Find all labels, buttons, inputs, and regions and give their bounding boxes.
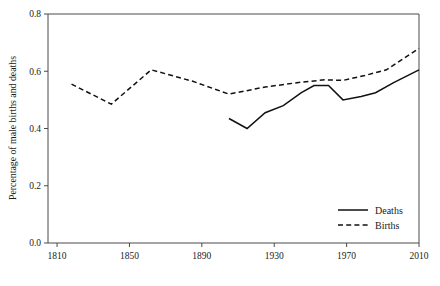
- plot-frame: [48, 14, 419, 243]
- y-tick-label: 0.6: [29, 67, 41, 77]
- series-line-deaths: [229, 70, 419, 129]
- data-series-group: [72, 48, 419, 128]
- x-tick-label: 2010: [410, 251, 429, 261]
- legend-label-deaths: Deaths: [375, 205, 403, 216]
- x-tick-label: 1890: [192, 251, 211, 261]
- y-tick-label: 0.8: [29, 9, 41, 19]
- legend-label-births: Births: [375, 220, 400, 231]
- x-tick-label: 1850: [120, 251, 139, 261]
- y-tick-label: 0.0: [29, 238, 41, 248]
- x-tick-label: 1810: [48, 251, 67, 261]
- chart-legend: DeathsBirths: [338, 205, 403, 231]
- series-line-births: [72, 48, 419, 104]
- y-tick-label: 0.2: [29, 181, 41, 191]
- chart-figure: 0.00.20.40.60.8 181018501890193019702010…: [0, 0, 440, 286]
- y-axis-title: Percentage of male births and deaths: [7, 56, 18, 200]
- x-axis: 181018501890193019702010: [48, 243, 429, 261]
- line-chart: 0.00.20.40.60.8 181018501890193019702010…: [0, 0, 440, 286]
- y-tick-label: 0.4: [29, 124, 41, 134]
- y-axis: 0.00.20.40.60.8: [29, 9, 48, 248]
- x-tick-label: 1970: [337, 251, 356, 261]
- x-tick-label: 1930: [265, 251, 284, 261]
